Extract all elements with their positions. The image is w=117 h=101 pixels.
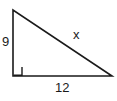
label-hypotenuse: x xyxy=(73,28,80,41)
label-vertical-leg: 9 xyxy=(2,35,9,48)
label-horizontal-leg: 12 xyxy=(55,81,69,94)
right-angle-marker-icon xyxy=(14,67,22,75)
right-triangle-figure: 9 12 x xyxy=(0,0,117,101)
triangle-outline xyxy=(13,10,112,76)
